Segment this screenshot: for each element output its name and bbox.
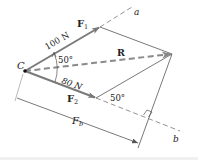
label-angle-50-top: 50° — [58, 55, 73, 65]
parallelogram-bottom-side — [96, 54, 172, 98]
parallelogram-top-side — [100, 27, 172, 54]
label-axis-b: b — [173, 134, 179, 144]
label-Fb: F b — [71, 115, 83, 128]
right-angle-marker — [144, 110, 153, 117]
vector-R — [25, 54, 171, 71]
label-F2: F 2 — [67, 93, 78, 106]
svg-text:2: 2 — [74, 98, 78, 106]
force-diagram: C F 1 100 N 50° R 80 N F 2 50° a b F b — [0, 0, 198, 160]
label-100n: 100 N — [43, 30, 71, 52]
label-angle-50-bottom: 50° — [110, 93, 125, 103]
label-R: R — [117, 47, 125, 58]
bottom-band — [0, 157, 198, 160]
svg-text:b: b — [79, 120, 83, 128]
axis-b-line — [96, 98, 180, 131]
label-c: C — [17, 60, 25, 71]
label-axis-a: a — [134, 7, 139, 17]
svg-text:1: 1 — [84, 23, 88, 31]
axis-a-line — [100, 7, 132, 27]
extension-line-c — [15, 74, 23, 101]
perpendicular-line — [138, 54, 172, 148]
label-F1: F 1 — [77, 18, 88, 31]
